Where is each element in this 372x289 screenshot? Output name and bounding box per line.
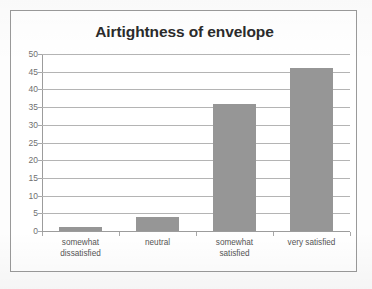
chart-frame: Airtightness of envelope 504540353025201… (10, 10, 357, 272)
x-axis-category-label: very satisfied (273, 238, 350, 249)
bar-series (42, 54, 350, 231)
category-label-line: dissatisfied (42, 249, 119, 260)
scanned-page: Airtightness of envelope 504540353025201… (0, 0, 372, 289)
x-axis-category-labels: somewhatdissatisfiedneutralsomewhatsatis… (42, 238, 350, 268)
x-axis-tick-mark (350, 232, 351, 236)
category-label-line: very satisfied (273, 238, 350, 249)
category-label-line: satisfied (196, 249, 273, 260)
x-axis-tick-mark (42, 232, 43, 236)
x-axis-tick-mark (196, 232, 197, 236)
bar (290, 68, 333, 231)
bar-slot (42, 54, 119, 231)
bar-slot (119, 54, 196, 231)
x-axis-tick-mark (273, 232, 274, 236)
bar-slot (196, 54, 273, 231)
category-label-line: somewhat (42, 238, 119, 249)
bar (136, 217, 179, 231)
bar (213, 104, 256, 231)
bar (59, 227, 102, 231)
category-label-line: somewhat (196, 238, 273, 249)
x-axis-category-label: somewhatsatisfied (196, 238, 273, 259)
category-label-line: neutral (119, 238, 196, 249)
x-axis-category-label: neutral (119, 238, 196, 249)
x-axis-category-label: somewhatdissatisfied (42, 238, 119, 259)
bar-slot (273, 54, 350, 231)
y-axis-tick-marks (11, 54, 42, 231)
x-axis-tick-marks (42, 232, 351, 237)
chart-title: Airtightness of envelope (11, 23, 358, 41)
x-axis-tick-mark (119, 232, 120, 236)
